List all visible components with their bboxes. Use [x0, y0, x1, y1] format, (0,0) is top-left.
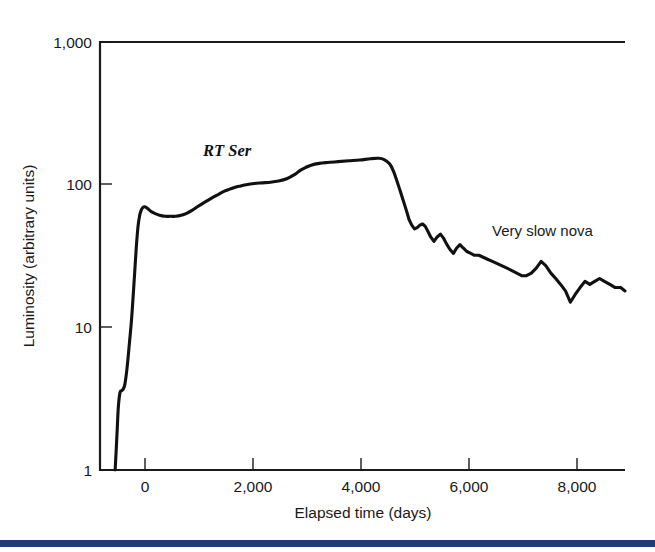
y-axis-title: Luminosity (arbitrary units) — [20, 165, 37, 348]
annotation-very-slow-nova: Very slow nova — [492, 222, 594, 239]
bottom-decorative-rule — [0, 540, 655, 547]
y-tick-label-10: 10 — [75, 319, 93, 336]
y-axis-ticks — [100, 42, 112, 470]
x-tick-label-4000: 4,000 — [342, 478, 381, 495]
x-tick-label-8000: 8,000 — [558, 478, 597, 495]
x-tick-label-2000: 2,000 — [234, 478, 273, 495]
plot-frame — [100, 42, 625, 470]
axis-frame-path — [100, 42, 625, 470]
x-axis-title: Elapsed time (days) — [295, 504, 432, 521]
y-tick-labels: 1,000 100 10 1 — [53, 34, 92, 479]
y-tick-label-1: 1 — [83, 462, 92, 479]
light-curve-line — [115, 158, 625, 470]
x-axis-ticks — [145, 458, 577, 470]
y-tick-label-100: 100 — [66, 176, 92, 193]
y-tick-label-1000: 1,000 — [53, 34, 92, 51]
x-tick-labels: 0 2,000 4,000 6,000 8,000 — [141, 478, 597, 495]
x-tick-label-0: 0 — [141, 478, 150, 495]
luminosity-light-curve-chart: 1,000 100 10 1 0 2,000 4,000 6,000 8,000… — [0, 0, 655, 552]
figure-container: 1,000 100 10 1 0 2,000 4,000 6,000 8,000… — [0, 0, 655, 552]
series-label-rt-ser: RT Ser — [202, 141, 252, 160]
x-tick-label-6000: 6,000 — [450, 478, 489, 495]
